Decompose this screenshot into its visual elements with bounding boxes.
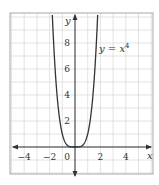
x-tick-label: 2 (98, 152, 104, 162)
y-tick-label: 6 (64, 64, 70, 74)
x-tick-labels: −4−2024 (18, 152, 129, 162)
x-tick-label: 4 (123, 152, 129, 162)
x-axis-label: x (147, 150, 153, 161)
y-tick-label: 4 (64, 90, 70, 100)
grid-lines (10, 13, 153, 174)
graph-y-equals-x-to-the-fourth: −4−2024 2468 x y y = x4 (0, 0, 159, 185)
axes (12, 14, 152, 177)
curve-equation-label: y = x4 (98, 42, 130, 54)
x-tick-label: 0 (64, 152, 70, 162)
curve-equation-base: y = x (98, 43, 125, 54)
x-tick-label: −2 (43, 152, 56, 162)
y-axis-label: y (64, 15, 71, 26)
y-tick-label: 2 (64, 116, 70, 126)
x-tick-label: −4 (18, 152, 32, 162)
y-tick-label: 8 (64, 38, 70, 48)
curve-equation-exponent: 4 (125, 42, 130, 50)
x-axis-left-arrow-icon (12, 145, 18, 150)
plot-border (10, 13, 153, 174)
